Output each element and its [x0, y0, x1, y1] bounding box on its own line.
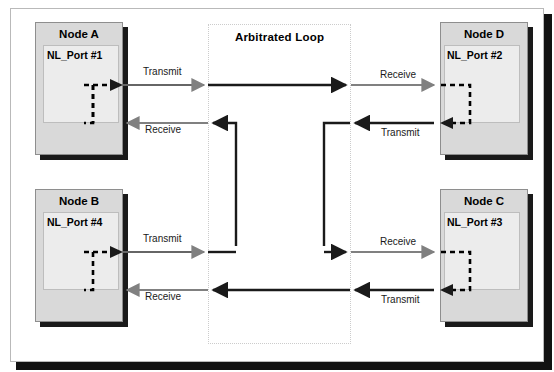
label-b-transmit: Transmit — [143, 233, 182, 244]
label-a-transmit: Transmit — [143, 66, 182, 77]
label-a-receive: Receive — [145, 124, 181, 135]
node-d-internal-dashed — [440, 85, 470, 129]
wire-d-transmit-to-a-receive — [127, 123, 434, 246]
node-b-internal-dashed — [84, 246, 123, 290]
diagram-canvas: Arbitrated Loop Node A NL_Port #1 Node D… — [0, 0, 554, 372]
label-c-transmit: Transmit — [381, 294, 420, 305]
label-c-receive: Receive — [380, 236, 416, 247]
node-c-internal-dashed — [440, 252, 470, 296]
label-d-receive: Receive — [380, 69, 416, 80]
loop-wiring — [0, 0, 554, 372]
node-a-internal-dashed — [84, 79, 123, 123]
label-d-transmit: Transmit — [381, 127, 420, 138]
label-b-receive: Receive — [145, 291, 181, 302]
